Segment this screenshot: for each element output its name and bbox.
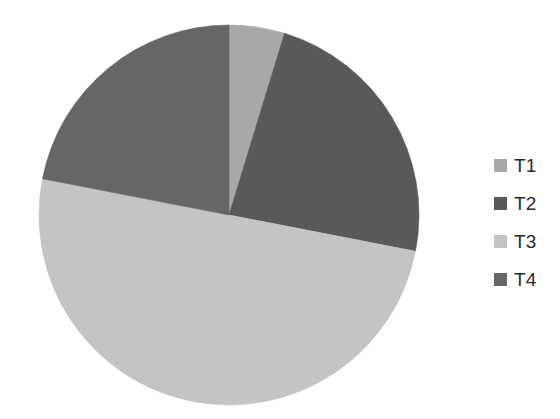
pie-chart-figure: T1 T2 T3 T4 [0, 0, 560, 419]
legend-item-label: T3 [514, 232, 537, 251]
legend-item-t3[interactable]: T3 [494, 222, 560, 260]
legend-item-t2[interactable]: T2 [494, 184, 560, 222]
legend-square-icon [494, 159, 507, 172]
legend-square-icon [494, 197, 507, 210]
pie-plot-area [0, 0, 460, 419]
legend-item-label: T1 [514, 156, 537, 175]
legend-item-t4[interactable]: T4 [494, 260, 560, 298]
legend-item-label: T4 [514, 270, 537, 289]
chart-legend: T1 T2 T3 T4 [494, 146, 560, 298]
pie-svg [0, 0, 460, 419]
legend-square-icon [494, 273, 507, 286]
legend-item-label: T2 [514, 194, 537, 213]
pie-slice-group [39, 25, 419, 405]
legend-square-icon [494, 235, 507, 248]
legend-item-t1[interactable]: T1 [494, 146, 560, 184]
